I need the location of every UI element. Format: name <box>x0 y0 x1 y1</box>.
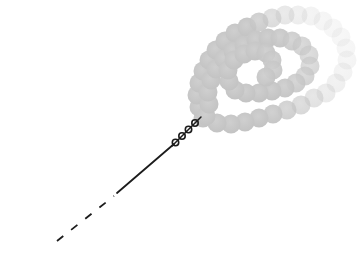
twist-coil <box>172 117 201 146</box>
polymer-diagram-svg <box>0 0 364 263</box>
bead-chain-spiral <box>188 6 357 134</box>
solid-stem-line <box>117 144 174 193</box>
figure-stage <box>0 0 364 263</box>
dashed-tail-line <box>57 196 114 241</box>
bead <box>257 68 276 87</box>
